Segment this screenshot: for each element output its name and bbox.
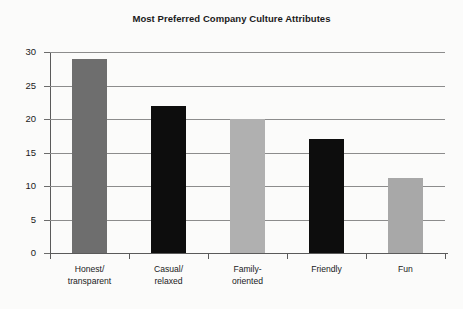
category-label: Casual/ relaxed: [129, 264, 208, 287]
y-tick-mark: [44, 220, 50, 221]
category-label: Fun: [366, 264, 445, 276]
chart-title: Most Preferred Company Culture Attribute…: [0, 13, 463, 24]
bar: [388, 178, 423, 253]
x-tick-mark: [129, 253, 130, 259]
y-axis-tick-label: 20: [10, 114, 36, 124]
bar: [151, 106, 186, 253]
y-axis-tick-label: 10: [10, 181, 36, 191]
bar: [72, 59, 107, 253]
y-tick-mark: [44, 153, 50, 154]
bar: [230, 119, 265, 253]
category-label: Honest/ transparent: [50, 264, 129, 287]
gridline: [50, 86, 445, 87]
y-axis-tick-label: 25: [10, 81, 36, 91]
chart-container: Most Preferred Company Culture Attribute…: [0, 0, 463, 309]
y-axis-tick-label: 30: [10, 47, 36, 57]
category-label: Family- oriented: [208, 264, 287, 287]
plot-area: 051015202530: [50, 52, 445, 253]
x-tick-mark: [287, 253, 288, 259]
x-tick-mark: [445, 253, 446, 259]
y-tick-mark: [44, 119, 50, 120]
y-axis-tick-label: 5: [10, 215, 36, 225]
y-tick-mark: [44, 186, 50, 187]
x-tick-mark: [208, 253, 209, 259]
x-axis-line: [44, 253, 448, 254]
x-tick-mark: [366, 253, 367, 259]
x-tick-mark: [50, 253, 51, 259]
y-axis-tick-label: 0: [10, 248, 36, 258]
y-tick-mark: [44, 52, 50, 53]
bar: [309, 139, 344, 253]
category-label: Friendly: [287, 264, 366, 276]
gridline: [50, 52, 445, 53]
y-tick-mark: [44, 86, 50, 87]
y-axis-tick-label: 15: [10, 148, 36, 158]
